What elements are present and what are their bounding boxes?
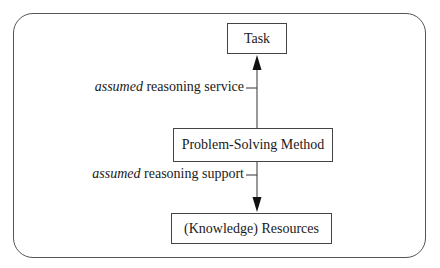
edge-label-italic: assumed (92, 166, 140, 181)
edge-label-text: reasoning support (141, 166, 244, 181)
edge-label-italic: assumed (95, 79, 143, 94)
psm-label: Problem-Solving Method (182, 137, 325, 153)
knowledge-resources-node: (Knowledge) Resources (171, 213, 332, 244)
arrowhead-down-icon (253, 197, 262, 212)
problem-solving-method-node: Problem-Solving Method (173, 128, 333, 162)
arrowhead-up-icon (253, 55, 262, 70)
task-label: Task (244, 31, 270, 47)
edge-label-reasoning-support: assumed reasoning support (92, 166, 244, 182)
task-node: Task (227, 23, 287, 54)
edge-label-text: reasoning service (143, 79, 244, 94)
resources-label: (Knowledge) Resources (184, 221, 319, 237)
edge-label-reasoning-service: assumed reasoning service (95, 79, 244, 95)
